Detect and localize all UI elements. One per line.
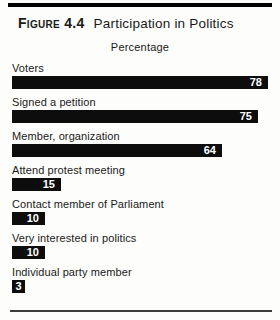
- bar-value-label: 10: [27, 212, 45, 225]
- bar-value-label: 78: [250, 76, 268, 89]
- bar-row: Voters 78: [12, 62, 268, 89]
- category-label: Voters: [12, 62, 268, 75]
- bar: 64: [12, 144, 222, 157]
- bar-row: Signed a petition 75: [12, 96, 268, 123]
- category-label: Individual party member: [12, 266, 268, 279]
- figure-header: Figure 4.4Participation in Politics: [18, 14, 234, 32]
- bar-value-label: 15: [43, 178, 61, 191]
- category-label: Attend protest meeting: [12, 164, 268, 177]
- figure-title: Participation in Politics: [94, 16, 234, 31]
- bar: 78: [12, 76, 268, 89]
- bar-value-label: 75: [240, 110, 258, 123]
- bar-value-label: 64: [204, 144, 222, 157]
- bar-value-label: 10: [27, 246, 45, 259]
- bar-row: Individual party member 3: [12, 266, 268, 293]
- top-rule: [8, 3, 272, 7]
- bar: 3: [12, 280, 25, 293]
- bar-row: Contact member of Parliament 10: [12, 198, 268, 225]
- axis-title: Percentage: [0, 41, 280, 53]
- bar: 10: [12, 246, 45, 259]
- category-label: Contact member of Parliament: [12, 198, 268, 211]
- bar-row: Attend protest meeting 15: [12, 164, 268, 191]
- figure-page: Figure 4.4Participation in Politics Perc…: [0, 0, 280, 320]
- bar: 15: [12, 178, 61, 191]
- bar: 75: [12, 110, 258, 123]
- bar-chart: Voters 78 Signed a petition 75 Member, o…: [12, 62, 268, 300]
- category-label: Very interested in politics: [12, 232, 268, 245]
- bar-row: Member, organization 64: [12, 130, 268, 157]
- category-label: Member, organization: [12, 130, 268, 143]
- bar-value-label: 3: [15, 280, 21, 293]
- bottom-rule: [10, 310, 272, 312]
- category-label: Signed a petition: [12, 96, 268, 109]
- bar-row: Very interested in politics 10: [12, 232, 268, 259]
- figure-label: Figure 4.4: [18, 15, 85, 31]
- bar: 10: [12, 212, 45, 225]
